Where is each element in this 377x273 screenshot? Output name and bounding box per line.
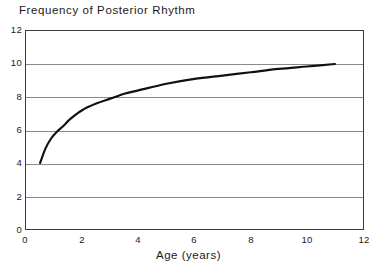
chart-title: Frequency of Posterior Rhythm bbox=[19, 4, 196, 16]
y-tick-label-2: 2 bbox=[0, 191, 22, 202]
data-curve-svg bbox=[26, 31, 363, 229]
x-tick-label-0: 0 bbox=[13, 234, 37, 245]
y-tick-label-8: 8 bbox=[0, 91, 22, 102]
y-tick-label-6: 6 bbox=[0, 124, 22, 135]
x-tick-label-8: 8 bbox=[239, 234, 263, 245]
x-tick-label-12: 12 bbox=[352, 234, 376, 245]
y-tick-label-10: 10 bbox=[0, 57, 22, 68]
x-tick-label-10: 10 bbox=[295, 234, 319, 245]
x-tick-label-2: 2 bbox=[70, 234, 94, 245]
x-tick-label-6: 6 bbox=[182, 234, 206, 245]
y-tick-label-12: 12 bbox=[0, 24, 22, 35]
x-tick-label-4: 4 bbox=[126, 234, 150, 245]
data-curve-path bbox=[40, 64, 335, 163]
plot-area bbox=[25, 30, 364, 230]
y-tick-label-4: 4 bbox=[0, 157, 22, 168]
chart-figure: Frequency of Posterior Rhythm 12 10 8 6 … bbox=[0, 0, 377, 273]
x-axis-title: Age (years) bbox=[0, 249, 377, 261]
